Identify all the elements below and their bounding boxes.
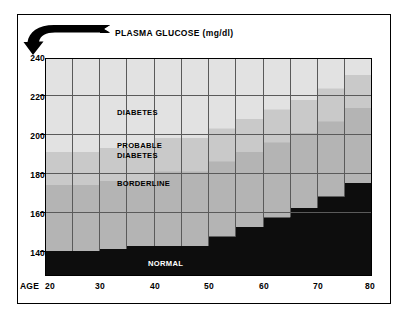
zone-label-normal: NORMAL	[148, 259, 183, 269]
y-tick-220: 220	[11, 92, 45, 102]
x-axis: AGE 20 30 40 50 60 70 80	[0, 278, 391, 298]
y-tick-180: 180	[11, 170, 45, 180]
x-tick-80: 80	[365, 281, 375, 291]
zone-label-diabetes: DIABETES	[117, 108, 158, 118]
chart-header: PLASMA GLUCOSE (mg/dl)	[22, 20, 272, 56]
x-tick-20: 20	[45, 281, 55, 291]
y-tick-160: 160	[11, 209, 45, 219]
zone-label-probable-diabetes-line1: PROBABLE	[117, 141, 162, 150]
zone-label-probable-diabetes: PROBABLEDIABETES	[117, 141, 162, 160]
x-axis-title: AGE	[20, 281, 39, 291]
x-tick-40: 40	[150, 281, 160, 291]
curved-arrow-icon	[22, 20, 112, 56]
x-tick-70: 70	[313, 281, 323, 291]
y-tick-240: 240	[11, 53, 45, 63]
y-tick-140: 140	[11, 248, 45, 258]
x-tick-30: 30	[95, 281, 105, 291]
y-axis: 240 220 200 180 160 140	[0, 58, 45, 276]
glucose-chart-figure: PLASMA GLUCOSE (mg/dl) 240 220 200 180 1…	[0, 0, 409, 321]
page-title: PLASMA GLUCOSE (mg/dl)	[115, 28, 233, 38]
zone-label-borderline: BORDERLINE	[117, 179, 170, 189]
stepped-area-plot	[45, 58, 372, 276]
zone-label-probable-diabetes-line2: DIABETES	[117, 151, 158, 160]
x-tick-50: 50	[204, 281, 214, 291]
y-tick-200: 200	[11, 131, 45, 141]
x-tick-60: 60	[259, 281, 269, 291]
plot-area: DIABETES PROBABLEDIABETES BORDERLINE NOR…	[45, 58, 372, 276]
